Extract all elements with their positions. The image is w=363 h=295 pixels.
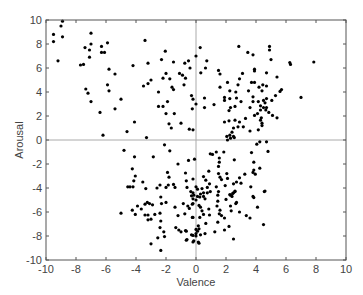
data-point (238, 77, 241, 80)
data-point (251, 100, 254, 103)
data-point (144, 187, 147, 190)
data-point (258, 167, 261, 170)
data-point (206, 191, 209, 194)
data-point (188, 128, 191, 131)
data-point (158, 183, 161, 186)
data-point (168, 77, 171, 80)
data-point (160, 58, 163, 61)
data-point (207, 207, 210, 210)
data-point (131, 185, 134, 188)
data-point (217, 172, 220, 175)
data-point (250, 151, 253, 154)
data-point (228, 193, 231, 196)
data-point (229, 204, 232, 207)
data-point (146, 213, 149, 216)
data-point (170, 126, 173, 129)
data-point (162, 230, 165, 233)
data-point (146, 218, 149, 221)
data-point (223, 216, 226, 219)
data-point (226, 81, 229, 84)
data-point (152, 155, 155, 158)
data-point (248, 106, 251, 109)
data-point (191, 98, 194, 101)
data-point (252, 161, 255, 164)
data-point (232, 126, 235, 129)
data-point (132, 179, 135, 182)
data-point (258, 140, 261, 143)
data-point (211, 153, 214, 156)
data-point (176, 162, 179, 165)
data-point (244, 117, 247, 120)
data-point (172, 88, 175, 91)
data-point (216, 194, 219, 197)
data-point (107, 68, 110, 71)
data-point (182, 202, 185, 205)
data-point (203, 197, 206, 200)
data-point (191, 128, 194, 131)
data-point (199, 192, 202, 195)
data-point (185, 179, 188, 182)
data-point (275, 116, 278, 119)
data-point (209, 190, 212, 193)
data-point (197, 242, 200, 245)
data-point (159, 249, 162, 252)
data-point (172, 183, 175, 186)
x-tick-label: -8 (71, 263, 81, 275)
data-point (160, 202, 163, 205)
data-point (167, 183, 170, 186)
data-point (188, 207, 191, 210)
data-point (128, 185, 131, 188)
data-point (212, 103, 215, 106)
data-point (205, 59, 208, 62)
data-point (199, 206, 202, 209)
y-tick-label: 4 (36, 86, 42, 98)
data-point (196, 188, 199, 191)
data-point (274, 94, 277, 97)
data-point (164, 50, 167, 53)
data-point (136, 204, 139, 207)
data-point (233, 105, 236, 108)
data-point (261, 83, 264, 86)
data-point (200, 209, 203, 212)
data-point (225, 135, 228, 138)
data-point (227, 109, 230, 112)
x-tick-label: 2 (223, 263, 229, 275)
data-point (299, 96, 302, 99)
data-point (264, 108, 267, 111)
data-point (278, 90, 281, 93)
data-point (202, 175, 205, 178)
data-point (217, 190, 220, 193)
data-point (119, 212, 122, 215)
data-point (224, 198, 227, 201)
data-point (262, 223, 265, 226)
data-point (202, 213, 205, 216)
data-point (268, 48, 271, 51)
data-point (145, 136, 148, 139)
data-point (218, 86, 221, 89)
data-point (194, 232, 197, 235)
data-point (251, 53, 254, 56)
data-point (226, 138, 229, 141)
data-point (125, 130, 128, 133)
data-point (289, 63, 292, 66)
data-point (107, 89, 110, 92)
data-point (134, 174, 137, 177)
data-point (168, 149, 171, 152)
data-point (143, 213, 146, 216)
data-point (131, 64, 134, 67)
data-point (178, 72, 181, 75)
data-point (194, 198, 197, 201)
data-point (151, 203, 154, 206)
data-point (233, 190, 236, 193)
data-point (238, 176, 241, 179)
data-point (237, 45, 240, 48)
data-point (215, 204, 218, 207)
data-point (161, 105, 164, 108)
data-point (88, 48, 91, 51)
y-tick-label: -2 (32, 158, 42, 170)
data-point (179, 122, 182, 125)
data-point (228, 97, 231, 100)
scatter-chart: -10-8-6-4-20246810 -10-8-6-4-20246810 Va… (0, 0, 363, 295)
data-point (257, 100, 260, 103)
data-point (173, 112, 176, 115)
